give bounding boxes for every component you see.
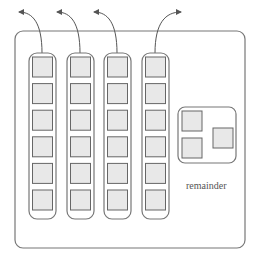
column-4 (142, 53, 169, 219)
cell (33, 57, 53, 77)
remainder-cell (182, 111, 202, 131)
cell (71, 190, 91, 210)
cell (108, 190, 128, 210)
cell (146, 190, 166, 210)
cell (33, 84, 53, 104)
cell (146, 163, 166, 183)
column-3 (104, 53, 131, 219)
cell (108, 57, 128, 77)
arrow-1 (19, 12, 42, 53)
cell (33, 137, 53, 157)
column-1 (29, 53, 56, 219)
cell (108, 84, 128, 104)
cell (108, 110, 128, 130)
remainder-label: remainder (186, 180, 227, 191)
remainder-cell (213, 128, 233, 148)
arrow-2 (57, 12, 80, 53)
column-2 (67, 53, 94, 219)
diagram-canvas (0, 0, 259, 258)
arrow-3 (94, 12, 117, 53)
cell (71, 57, 91, 77)
cell (71, 84, 91, 104)
cell (146, 110, 166, 130)
cell (108, 137, 128, 157)
cell (33, 163, 53, 183)
cell (108, 163, 128, 183)
cell (71, 163, 91, 183)
cell (71, 137, 91, 157)
cell (146, 137, 166, 157)
cell (146, 57, 166, 77)
cell (33, 110, 53, 130)
arrow-4 (155, 12, 181, 53)
remainder-cell (182, 138, 202, 158)
cell (146, 84, 166, 104)
cell (33, 190, 53, 210)
cell (71, 110, 91, 130)
